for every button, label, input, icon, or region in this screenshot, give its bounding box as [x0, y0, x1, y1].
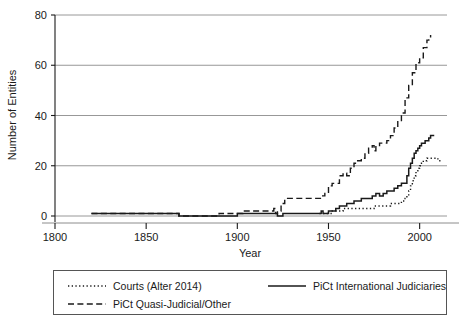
y-tick-label: 60: [35, 59, 47, 71]
x-tick-label: 1850: [134, 231, 158, 243]
legend-label-1: PiCt International Judiciaries: [313, 280, 446, 292]
chart-legend: Courts (Alter 2014)PiCt International Ju…: [54, 271, 447, 315]
x-tick-label: 2000: [407, 231, 431, 243]
y-tick-label: 0: [41, 210, 47, 222]
x-axis-ticks: 18001850190019502000: [43, 223, 432, 243]
x-axis-title: Year: [239, 247, 262, 259]
legend-label-0: Courts (Alter 2014): [113, 280, 202, 292]
y-tick-label: 40: [35, 110, 47, 122]
x-tick-label: 1900: [225, 231, 249, 243]
line-chart: 020406080 18001850190019502000 Number of…: [0, 0, 459, 321]
y-tick-label: 80: [35, 9, 47, 21]
series-line-0: [319, 158, 441, 213]
legend-label-2: PiCt Quasi-Judicial/Other: [113, 298, 231, 310]
y-tick-label: 20: [35, 160, 47, 172]
series-line-2: [91, 35, 430, 216]
series-line-1: [91, 136, 434, 216]
gridlines: [55, 15, 447, 216]
y-axis-ticks: 020406080: [35, 9, 55, 222]
axis-lines: [42, 15, 459, 223]
data-series-group: [91, 35, 441, 216]
x-tick-label: 1950: [316, 231, 340, 243]
x-tick-label: 1800: [43, 231, 67, 243]
chart-figure: 020406080 18001850190019502000 Number of…: [0, 0, 459, 321]
y-axis-title: Number of Entities: [6, 69, 18, 160]
